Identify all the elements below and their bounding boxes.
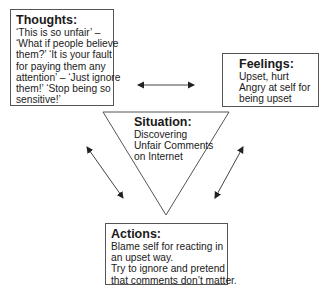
thoughts-line: them!’ ‘Stop being so bbox=[16, 83, 109, 94]
thoughts-box: Thoughts: ‘This is so unfair’ – ‘What if… bbox=[10, 9, 114, 106]
actions-box: Actions: Blame self for reacting in an u… bbox=[105, 223, 228, 285]
thoughts-line: ‘What if people believe bbox=[16, 38, 109, 49]
feelings-title: Feelings: bbox=[239, 57, 314, 71]
situation-line: Discovering bbox=[134, 129, 213, 140]
actions-line: an upset way. bbox=[111, 252, 223, 263]
thoughts-line: for paying them any bbox=[16, 61, 109, 72]
feelings-line: Angry at self for bbox=[239, 82, 314, 93]
arrow-feelings-actions bbox=[215, 147, 243, 198]
feelings-line: Upset, hurt bbox=[239, 71, 314, 82]
feelings-box: Feelings: Upset, hurt Angry at self for … bbox=[222, 53, 319, 107]
actions-line: that comments don’t matter. bbox=[111, 275, 223, 286]
thoughts-line: them?’ ‘It is your fault bbox=[16, 49, 109, 60]
situation-line: on Internet bbox=[134, 151, 213, 162]
situation-line: Unfair Comments bbox=[134, 140, 213, 151]
thoughts-line: attention’ – ‘Just ignore bbox=[16, 72, 109, 83]
thoughts-line: ‘This is so unfair’ – bbox=[16, 27, 109, 38]
situation-label: Situation: Discovering Unfair Comments o… bbox=[134, 115, 213, 163]
situation-title: Situation: bbox=[134, 115, 213, 129]
actions-title: Actions: bbox=[111, 227, 223, 241]
actions-line: Blame self for reacting in bbox=[111, 241, 223, 252]
actions-line: Try to ignore and pretend bbox=[111, 263, 223, 274]
feelings-line: being upset bbox=[239, 93, 314, 104]
thoughts-title: Thoughts: bbox=[16, 13, 109, 27]
arrow-thoughts-actions bbox=[87, 147, 123, 198]
thoughts-line: sensitive!’ bbox=[16, 94, 109, 105]
